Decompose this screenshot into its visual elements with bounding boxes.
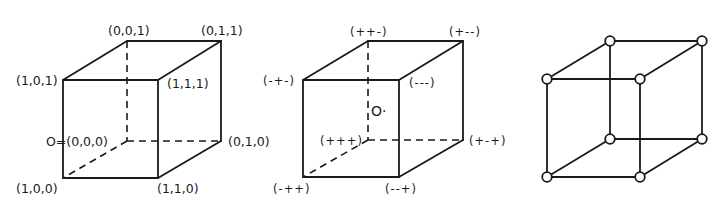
- vertex-node: [605, 134, 615, 144]
- vertex-label: (-++): [273, 182, 310, 196]
- vertex-label: (1,0,0): [16, 181, 58, 196]
- front-face: [303, 80, 399, 177]
- vertex-label: (+-+): [469, 134, 506, 148]
- three-cube-diagram: (0,0,1) (0,1,1) (1,0,1) (1,1,1) O=(0,0,0…: [0, 0, 719, 218]
- vertex-label: (0,1,1): [201, 23, 243, 38]
- vertex-label: (0,1,0): [228, 134, 270, 149]
- vertex-node: [542, 172, 552, 182]
- binary-cube: (0,0,1) (0,1,1) (1,0,1) (1,1,1) O=(0,0,0…: [16, 23, 270, 196]
- edge: [640, 139, 702, 177]
- origin-label: O·: [371, 103, 386, 119]
- edge: [399, 140, 463, 177]
- edge: [547, 139, 610, 177]
- graph-cube: [542, 36, 707, 182]
- edge: [158, 141, 221, 178]
- vertex-label: (---): [409, 76, 435, 90]
- vertex-node: [635, 74, 645, 84]
- front-face: [63, 80, 158, 178]
- vertex-label: (+++): [320, 134, 363, 148]
- vertex-node: [605, 36, 615, 46]
- vertex-label: (--+): [385, 182, 417, 196]
- vertex-label: (1,0,1): [16, 73, 58, 88]
- vertex-label: (1,1,0): [157, 181, 199, 196]
- vertex-label: (++-): [350, 25, 387, 39]
- edge: [63, 41, 127, 80]
- edge: [303, 41, 368, 80]
- vertex-label: O=(0,0,0): [46, 134, 108, 149]
- vertex-node: [697, 134, 707, 144]
- edge: [158, 41, 221, 80]
- vertex-label: (+--): [449, 25, 481, 39]
- sign-cube: (++-) (+--) (-+-) (---) (+++) (+-+) (-++…: [263, 25, 506, 196]
- vertex-node: [542, 74, 552, 84]
- vertex-label: (1,1,1): [167, 76, 209, 91]
- edge: [547, 41, 610, 79]
- edge: [640, 41, 702, 79]
- vertex-label: (-+-): [263, 74, 295, 88]
- edge: [399, 41, 463, 80]
- vertex-node: [697, 36, 707, 46]
- vertex-label: (0,0,1): [108, 23, 150, 38]
- vertex-node: [635, 172, 645, 182]
